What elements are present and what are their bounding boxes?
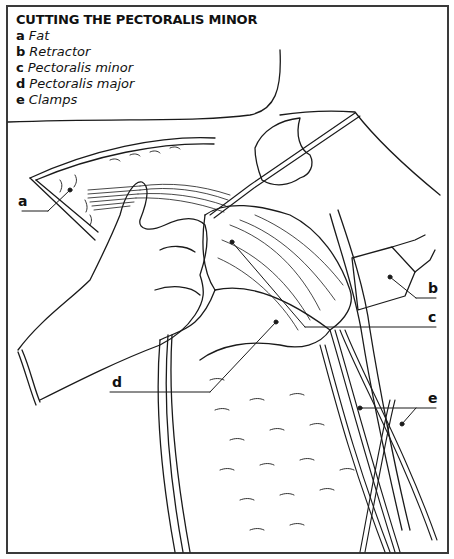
legend-key: b xyxy=(16,44,25,59)
retractor xyxy=(352,247,415,310)
pectoralis-minor xyxy=(205,206,351,330)
leader-lines xyxy=(22,188,436,426)
legend-label: Retractor xyxy=(29,44,90,59)
chest-texture xyxy=(210,379,354,531)
legend-label: Pectoralis major xyxy=(29,76,134,91)
figure-title: CUTTING THE PECTORALIS MINOR xyxy=(16,12,257,27)
scissors xyxy=(210,113,360,218)
right-hand xyxy=(280,111,440,195)
legend-key: c xyxy=(16,60,24,75)
callout-a: a xyxy=(18,193,27,209)
legend-item-e: eClamps xyxy=(16,92,257,108)
incision-edges xyxy=(30,138,410,552)
legend-label: Pectoralis minor xyxy=(28,60,133,75)
legend-key: a xyxy=(16,28,25,43)
callout-b: b xyxy=(428,280,438,296)
legend-key: e xyxy=(16,92,25,107)
legend-label: Fat xyxy=(29,28,50,43)
pectoralis-minor-fibers xyxy=(218,215,343,330)
muscle-fibers xyxy=(88,184,230,212)
clamps xyxy=(320,330,437,552)
legend-item-b: bRetractor xyxy=(16,44,257,60)
figure-legend: CUTTING THE PECTORALIS MINOR aFat bRetra… xyxy=(16,12,257,108)
legend-label: Clamps xyxy=(29,92,77,107)
callout-e: e xyxy=(428,390,438,406)
legend-item-d: dPectoralis major xyxy=(16,76,257,92)
callout-c: c xyxy=(428,309,436,325)
legend-item-c: cPectoralis minor xyxy=(16,60,257,76)
legend-key: d xyxy=(16,76,25,91)
callout-d: d xyxy=(112,374,122,390)
legend-item-a: aFat xyxy=(16,28,257,44)
pectoralis-major xyxy=(200,288,330,360)
left-hand xyxy=(18,182,207,400)
